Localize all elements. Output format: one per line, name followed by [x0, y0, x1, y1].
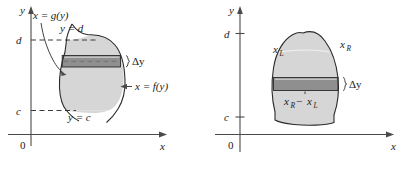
label-x-right-boundary: x R [339, 38, 352, 53]
right-panel: y x 0 d c x L x R x R − x L Δy [199, 0, 398, 171]
tick-label-c-left: c [16, 105, 21, 117]
y-axis-arrowhead-right [237, 6, 243, 14]
label-delta-y-left: Δy [132, 55, 145, 67]
x-axis-label-left: x [159, 140, 165, 152]
x-axis-arrowhead-right [386, 132, 394, 138]
svg-text:L: L [313, 101, 318, 110]
shaded-region-left [59, 35, 123, 111]
y-axis-label-right: y [228, 4, 234, 16]
label-y-equals-d: y = d [59, 22, 84, 34]
label-x-equals-f-of-y: x = f(y) [134, 80, 168, 93]
origin-label-left: 0 [20, 139, 26, 151]
tick-label-d-right: d [224, 28, 230, 40]
x-axis-label-right: x [390, 140, 396, 152]
svg-text:x: x [306, 95, 312, 107]
label-delta-y-right: Δy [349, 78, 362, 90]
label-y-equals-c: y = c [67, 111, 91, 123]
svg-text:x: x [283, 95, 289, 107]
tick-label-d-left: d [16, 34, 22, 46]
svg-text:−: − [296, 95, 302, 107]
x-axis-arrowhead-left [159, 132, 167, 138]
svg-text:x: x [339, 38, 345, 50]
left-panel: y x 0 d c x = g(y) y = d y = c x = f(y) … [0, 0, 199, 171]
svg-text:L: L [279, 49, 284, 58]
y-axis-label-left: y [19, 4, 25, 16]
svg-text:R: R [346, 44, 352, 53]
delta-y-brace-right [343, 78, 347, 91]
delta-y-brace-left [126, 56, 130, 68]
label-x-equals-g-of-y: x = g(y) [32, 9, 69, 22]
origin-label-right: 0 [228, 139, 234, 151]
svg-text:x: x [272, 43, 278, 55]
figure-root: y x 0 d c x = g(y) y = d y = c x = f(y) … [0, 0, 398, 171]
tick-label-c-right: c [224, 111, 229, 123]
svg-text:R: R [290, 101, 296, 110]
